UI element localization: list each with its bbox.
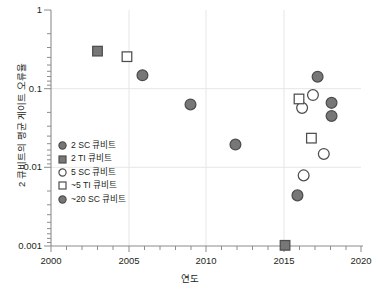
x-axis-title: 연도 xyxy=(0,271,380,285)
x-axis-ticks xyxy=(51,246,361,252)
data-point xyxy=(307,133,317,143)
legend-item[interactable]: ~5 TI 큐비트 xyxy=(56,179,126,192)
data-point xyxy=(312,71,323,82)
legend-item-label: 5 SC 큐비트 xyxy=(71,166,117,179)
axis-lines xyxy=(51,10,363,246)
data-point xyxy=(326,97,337,108)
legend-item[interactable]: 2 SC 큐비트 xyxy=(56,139,126,152)
data-point xyxy=(93,46,103,56)
series-3 xyxy=(122,52,316,143)
data-point xyxy=(294,94,304,104)
legend: 2 SC 큐비트2 TI 큐비트5 SC 큐비트~5 TI 큐비트~20 SC … xyxy=(56,139,126,206)
x-tick-label-2020: 2020 xyxy=(336,255,380,266)
y-tick-label-1: 1 xyxy=(0,4,42,15)
y-axis-title: 2 큐비트의 평균 게이트 오류율 xyxy=(14,30,28,220)
filled-circle-icon xyxy=(56,193,69,206)
y-tick-label-0p1: 0.1 xyxy=(0,83,42,94)
legend-item[interactable]: ~20 SC 큐비트 xyxy=(56,193,126,206)
legend-item-label: ~20 SC 큐비트 xyxy=(71,193,126,206)
data-point xyxy=(318,149,329,160)
series-0 xyxy=(137,70,303,201)
data-point xyxy=(185,99,196,110)
legend-item-label: ~5 TI 큐비트 xyxy=(71,179,117,192)
legend-item-label: 2 SC 큐비트 xyxy=(71,139,117,152)
data-point xyxy=(230,139,241,150)
data-point xyxy=(292,190,303,201)
scatter-chart: 2 큐비트의 평균 게이트 오류율 연도 1 0.1 0.01 0.001 20… xyxy=(0,0,380,293)
data-point xyxy=(308,90,319,101)
legend-item[interactable]: 2 TI 큐비트 xyxy=(56,152,126,165)
y-axis-ticks xyxy=(44,10,51,246)
data-point xyxy=(122,52,132,62)
x-tick-label-2000: 2000 xyxy=(26,255,76,266)
data-point xyxy=(137,70,148,81)
legend-item-label: 2 TI 큐비트 xyxy=(71,152,112,165)
open-circle-icon xyxy=(56,166,69,179)
data-point xyxy=(280,241,290,251)
data-point xyxy=(298,170,309,181)
filled-circle-icon xyxy=(56,139,69,152)
y-tick-label-0p001: 0.001 xyxy=(0,240,42,251)
y-tick-label-0p01: 0.01 xyxy=(0,161,42,172)
x-tick-label-2015: 2015 xyxy=(259,255,309,266)
x-tick-label-2010: 2010 xyxy=(181,255,231,266)
open-square-icon xyxy=(56,179,69,192)
filled-square-icon xyxy=(56,153,69,166)
x-tick-label-2005: 2005 xyxy=(104,255,154,266)
legend-item[interactable]: 5 SC 큐비트 xyxy=(56,166,126,179)
gridlines xyxy=(51,10,361,246)
data-point xyxy=(326,111,337,122)
